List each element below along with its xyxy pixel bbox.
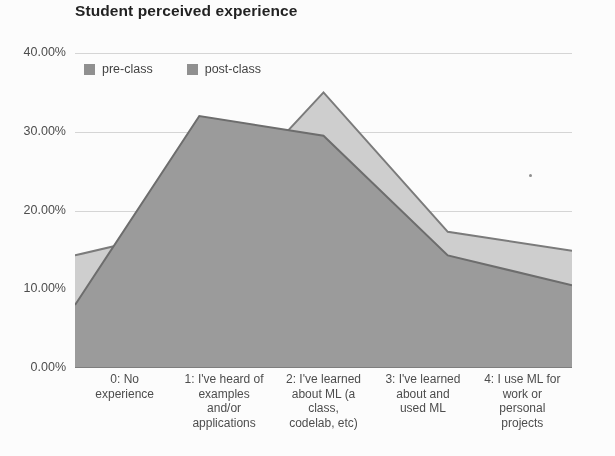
legend-swatch-icon xyxy=(84,64,95,75)
y-axis-tick-label: 40.00% xyxy=(0,45,66,59)
x-axis-label-line: experience xyxy=(77,387,172,402)
x-axis-label-line: and/or xyxy=(176,401,271,416)
x-axis-label-line: codelab, etc) xyxy=(276,416,371,431)
x-axis-label-line: about ML (a xyxy=(276,387,371,402)
x-axis-tick-label: 3: I've learnedabout andused ML xyxy=(373,372,472,430)
legend-label: pre-class xyxy=(102,62,153,76)
x-axis-tick-label: 0: Noexperience xyxy=(75,372,174,430)
x-axis-label-line: 0: No xyxy=(77,372,172,387)
area-chart: Student perceived experience 40.00%30.00… xyxy=(0,0,615,456)
x-axis-label-line: class, xyxy=(276,401,371,416)
y-axis-tick-label: 30.00% xyxy=(0,124,66,138)
x-axis-line xyxy=(75,367,572,368)
x-axis-label-line: examples xyxy=(176,387,271,402)
legend-label: post-class xyxy=(205,62,261,76)
plot-area xyxy=(75,53,572,368)
x-axis-label-line: projects xyxy=(475,416,570,431)
x-axis-tick-label: 4: I use ML forwork orpersonalprojects xyxy=(473,372,572,430)
x-axis-label-line: about and xyxy=(375,387,470,402)
x-axis-label-line: applications xyxy=(176,416,271,431)
chart-legend: pre-classpost-class xyxy=(84,62,261,76)
x-axis-label-line: work or xyxy=(475,387,570,402)
y-axis-tick-label: 0.00% xyxy=(0,360,66,374)
x-axis-tick-label: 1: I've heard ofexamplesand/orapplicatio… xyxy=(174,372,273,430)
scan-speck xyxy=(529,174,532,177)
legend-item-post-class[interactable]: post-class xyxy=(187,62,261,76)
chart-title: Student perceived experience xyxy=(75,2,495,20)
y-axis-tick-label: 10.00% xyxy=(0,281,66,295)
series-layer xyxy=(75,53,572,368)
x-axis-label-line: personal xyxy=(475,401,570,416)
x-axis-label-line: 3: I've learned xyxy=(375,372,470,387)
legend-item-pre-class[interactable]: pre-class xyxy=(84,62,153,76)
x-axis-tick-label: 2: I've learnedabout ML (aclass,codelab,… xyxy=(274,372,373,430)
x-axis-label-line: 1: I've heard of xyxy=(176,372,271,387)
y-axis-tick-label: 20.00% xyxy=(0,203,66,217)
legend-swatch-icon xyxy=(187,64,198,75)
x-axis-label-line: 2: I've learned xyxy=(276,372,371,387)
x-axis-label-line: 4: I use ML for xyxy=(475,372,570,387)
x-axis-tick-labels: 0: Noexperience1: I've heard ofexamplesa… xyxy=(75,372,572,430)
x-axis-label-line: used ML xyxy=(375,401,470,416)
